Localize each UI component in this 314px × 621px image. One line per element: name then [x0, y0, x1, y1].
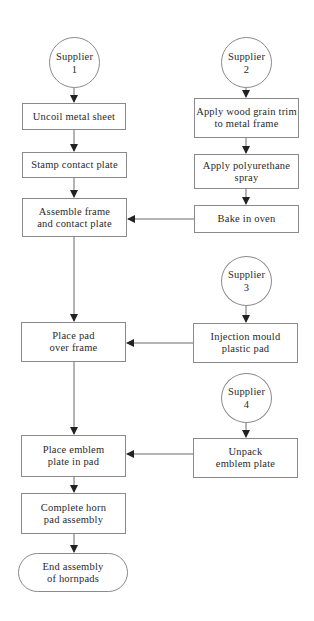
supplier-2-label: Supplier 2	[228, 50, 265, 76]
step-apply-polyurethane: Apply polyurethane spray	[194, 154, 299, 189]
supplier-1-label: Supplier 1	[56, 50, 93, 76]
step-bake-label: Bake in oven	[218, 213, 276, 225]
supplier-3-label: Supplier 3	[228, 268, 265, 294]
supplier-4-label: Supplier 4	[228, 385, 265, 411]
step-unpack-emblem: Unpack emblem plate	[193, 438, 298, 478]
step-stamp-label: Stamp contact plate	[31, 159, 118, 171]
step-assemble-frame: Assemble frame and contact plate	[22, 198, 127, 237]
step-stamp-contact-plate: Stamp contact plate	[22, 152, 127, 178]
step-place-emblem: Place emblem plate in pad	[21, 435, 126, 477]
step-complete-horn-pad: Complete horn pad assembly	[21, 493, 126, 534]
supplier-1-node: Supplier 1	[49, 37, 100, 88]
step-bake-in-oven: Bake in oven	[194, 205, 299, 233]
step-uncoil-label: Uncoil metal sheet	[33, 111, 115, 123]
step-injection-mould: Injection mould plastic pad	[193, 323, 298, 363]
supplier-2-node: Supplier 2	[221, 37, 272, 88]
step-injection-label: Injection mould plastic pad	[211, 331, 281, 355]
step-apply-trim-label: Apply wood grain trim to metal frame	[196, 106, 297, 130]
step-unpack-label: Unpack emblem plate	[216, 446, 275, 470]
supplier-4-node: Supplier 4	[221, 373, 272, 423]
step-apply-spray-label: Apply polyurethane spray	[203, 160, 290, 184]
step-complete-label: Complete horn pad assembly	[41, 502, 106, 526]
step-place-pad-label: Place pad over frame	[50, 330, 98, 354]
terminal-end-label: End assembly of hornpads	[42, 561, 103, 585]
supplier-3-node: Supplier 3	[221, 256, 272, 306]
step-apply-wood-grain: Apply wood grain trim to metal frame	[194, 98, 299, 138]
terminal-end-assembly: End assembly of hornpads	[18, 553, 128, 592]
step-place-pad: Place pad over frame	[21, 322, 126, 362]
step-place-emblem-label: Place emblem plate in pad	[43, 444, 105, 468]
step-uncoil-metal-sheet: Uncoil metal sheet	[22, 103, 126, 130]
step-assemble-label: Assemble frame and contact plate	[37, 206, 112, 230]
